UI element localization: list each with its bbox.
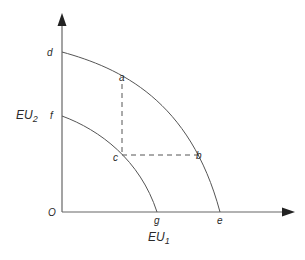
svg-text:EU2: EU2 xyxy=(16,108,38,124)
x-axis-arrow-icon xyxy=(282,208,295,217)
utility-possibility-diagram: d f a b c g e O EU2 EU1 xyxy=(0,0,305,260)
label-d: d xyxy=(47,47,53,58)
y-axis-title: EU2 xyxy=(16,108,38,124)
label-b: b xyxy=(196,150,202,161)
label-a: a xyxy=(119,72,125,83)
inner-frontier-curve xyxy=(62,116,157,212)
label-g: g xyxy=(154,215,160,226)
label-e: e xyxy=(217,215,223,226)
label-c: c xyxy=(113,152,118,163)
outer-frontier-curve xyxy=(62,52,220,212)
svg-text:EU1: EU1 xyxy=(148,230,170,246)
y-axis-arrow-icon xyxy=(58,13,67,26)
label-f: f xyxy=(50,110,54,121)
origin-label: O xyxy=(48,207,56,218)
x-axis-title: EU1 xyxy=(148,230,170,246)
x-axis xyxy=(62,208,295,217)
y-axis xyxy=(58,13,67,212)
